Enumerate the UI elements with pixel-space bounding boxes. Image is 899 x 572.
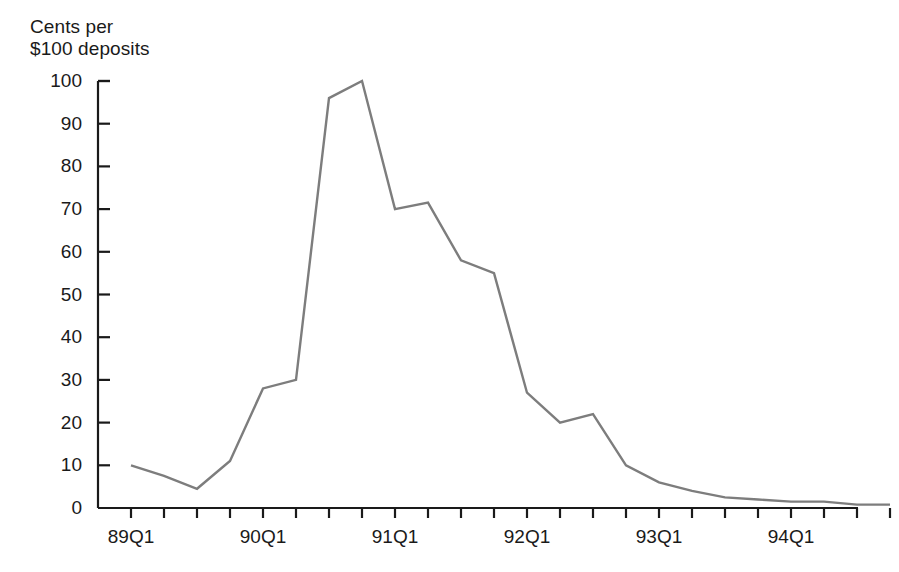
y-axis-tick-label: 60: [26, 242, 82, 261]
y-axis-tick-label: 90: [26, 114, 82, 133]
x-axis-tick-label: 92Q1: [482, 527, 572, 546]
x-axis-tick-label: 89Q1: [86, 527, 176, 546]
plot-area: [0, 0, 899, 572]
x-axis-ticks: [131, 508, 890, 518]
x-axis-tick-label: 93Q1: [614, 527, 704, 546]
x-axis-tick-label: 91Q1: [350, 527, 440, 546]
data-series-line: [131, 81, 890, 505]
x-axis-tick-label: 90Q1: [218, 527, 308, 546]
y-axis-tick-label: 0: [26, 498, 82, 517]
x-axis-tick-label: 94Q1: [746, 527, 836, 546]
y-axis-tick-label: 70: [26, 199, 82, 218]
y-axis-tick-label: 50: [26, 285, 82, 304]
y-axis-tick-label: 40: [26, 327, 82, 346]
y-axis-tick-label: 30: [26, 370, 82, 389]
chart-figure: Cents per $100 deposits 0102030405060708…: [0, 0, 899, 572]
axis-lines: [98, 81, 858, 508]
y-axis-tick-label: 10: [26, 455, 82, 474]
y-axis-tick-label: 100: [26, 71, 82, 90]
y-axis-tick-label: 20: [26, 413, 82, 432]
y-axis-tick-label: 80: [26, 156, 82, 175]
y-axis-ticks: [98, 81, 110, 465]
